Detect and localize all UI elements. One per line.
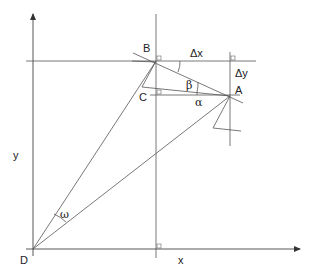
- line-b-d: [33, 61, 156, 249]
- right-angle-marker-b: [157, 56, 161, 60]
- angle-arc-beta: [197, 82, 198, 92]
- line-a-down: [213, 96, 230, 128]
- right-angle-marker-c: [157, 90, 161, 94]
- axis-label-x: x: [178, 255, 184, 266]
- angle-label-beta: β: [186, 80, 192, 91]
- right-angle-marker-a: [231, 56, 235, 60]
- right-angle-marker-x-axis: [157, 244, 161, 248]
- delta-x-label: Δx: [190, 48, 203, 59]
- diagram-canvas: [0, 0, 310, 273]
- point-label-a: A: [235, 85, 242, 96]
- point-label-b: B: [143, 43, 150, 54]
- line-a-d: [33, 96, 230, 249]
- point-label-c: C: [139, 92, 147, 103]
- delta-y-label: Δy: [235, 68, 248, 79]
- axis-label-y: y: [13, 150, 19, 161]
- angle-label-alpha: α: [195, 97, 202, 108]
- angle-label-omega: ω: [60, 209, 69, 220]
- angle-arc-dx: [178, 61, 180, 72]
- line-lower-tick: [213, 128, 241, 131]
- point-label-d: D: [20, 255, 28, 266]
